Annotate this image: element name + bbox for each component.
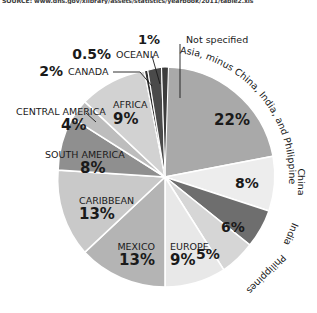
- label-oceania-pct: 0.5%: [72, 46, 111, 62]
- label-canada-name: CANADA: [68, 66, 109, 77]
- label-europe-pct: 9%: [170, 251, 195, 269]
- label-asia-pct: 22%: [214, 111, 250, 129]
- label-china-name: China: [296, 168, 307, 195]
- pie-chart-svg: 1% Not specified Asia, minus China, Indi…: [0, 0, 317, 313]
- label-mexico-pct: 13%: [119, 251, 155, 269]
- label-china-pct: 8%: [235, 175, 259, 191]
- label-south-america-pct: 8%: [80, 159, 105, 177]
- label-philippines-name: Philippines: [244, 252, 288, 296]
- label-not-specified-pct: 1%: [138, 32, 160, 47]
- label-central-america-pct: 4%: [61, 116, 86, 134]
- label-africa-name: AFRICA: [113, 99, 148, 110]
- label-caribbean-pct: 13%: [79, 205, 115, 223]
- label-india-name: India: [282, 221, 301, 247]
- label-oceania-name: OCEANIA: [116, 49, 160, 60]
- label-canada-pct: 2%: [39, 63, 63, 79]
- label-africa-pct: 9%: [113, 110, 138, 128]
- label-india-pct: 6%: [221, 219, 245, 235]
- label-not-specified-name: Not specified: [186, 34, 248, 45]
- pie-chart-figure: SOURCE: www.dhs.gov/xlibrary/assets/stat…: [0, 0, 317, 313]
